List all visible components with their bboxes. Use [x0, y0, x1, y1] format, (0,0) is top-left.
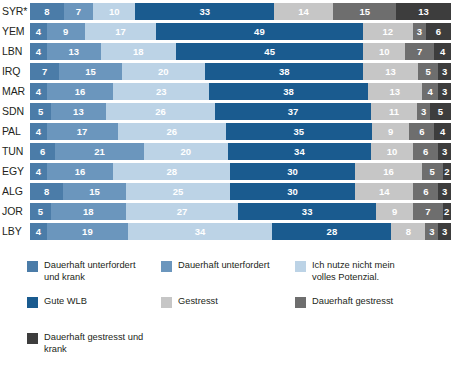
- legend-item[interactable]: Gestresst: [161, 296, 218, 308]
- bar-row-label: EGY: [0, 163, 30, 180]
- bar-segment: 9: [376, 203, 414, 220]
- bar-segment: 4: [30, 123, 47, 140]
- bar-segment-value: 35: [294, 126, 305, 137]
- bar-segment-value: 6: [40, 146, 45, 157]
- bar-segment-value: 28: [166, 166, 177, 177]
- bar-track: 4917491236: [30, 23, 451, 40]
- bar-segment-value: 30: [287, 186, 298, 197]
- legend-item[interactable]: Ich nutze nicht mein volles Potenzial.: [295, 260, 395, 283]
- bar-segment-value: 28: [327, 226, 338, 237]
- bar-segment-value: 17: [77, 126, 88, 137]
- bar-segment-value: 13: [68, 46, 79, 57]
- bar-segment-value: 11: [389, 106, 399, 117]
- bar-segment: 4: [434, 123, 451, 140]
- bar-segment-value: 45: [264, 46, 275, 57]
- bar-segment-value: 17: [115, 26, 126, 37]
- bar-segment: 14: [355, 183, 413, 200]
- legend-label: Dauerhaft unterfordert und krank: [44, 260, 135, 283]
- bar-row-label: JOR: [0, 203, 30, 220]
- bar-segment-value: 9: [63, 26, 68, 37]
- bar-segment: 7: [30, 63, 59, 80]
- bar-segment: 4: [422, 83, 439, 100]
- bar-segment-value: 3: [442, 66, 447, 77]
- legend-label: Dauerhaft unterfordert: [178, 260, 269, 272]
- bar-segment: 4: [30, 23, 47, 40]
- bar-segment: 16: [47, 83, 114, 100]
- bar-row: SYR*871033141513: [0, 3, 451, 20]
- bar-segment-value: 37: [288, 106, 299, 117]
- legend-label: Dauerhaft gestresst und krank: [44, 332, 143, 355]
- bar-segment-value: 4: [440, 126, 445, 137]
- bar-segment-value: 3: [442, 146, 447, 157]
- bar-segment-value: 9: [392, 206, 397, 217]
- legend-color-swatch: [295, 261, 306, 272]
- bar-row: JOR5182733972: [0, 203, 451, 220]
- bar-track: 41318451074: [30, 43, 451, 60]
- bar-segment: 6: [426, 23, 451, 40]
- bar-track: 51326371135: [30, 103, 451, 120]
- bar-segment-value: 16: [383, 166, 394, 177]
- bar-segment-value: 20: [180, 146, 191, 157]
- bar-segment: 5: [418, 63, 439, 80]
- bar-segment: 5: [30, 103, 51, 120]
- bar-segment: 9: [47, 23, 85, 40]
- bar-segment-value: 10: [387, 146, 398, 157]
- bar-segment: 19: [47, 223, 128, 240]
- bar-segment: 4: [434, 43, 451, 60]
- bar-segment-value: 4: [36, 166, 41, 177]
- legend-color-swatch: [27, 333, 38, 344]
- bar-segment: 6: [30, 143, 55, 160]
- bar-segment: 33: [135, 3, 274, 20]
- bar-segment-value: 3: [442, 226, 447, 237]
- bar-segment: 30: [230, 183, 355, 200]
- bar-segment: 3: [438, 223, 451, 240]
- bar-segment-value: 4: [36, 226, 41, 237]
- bar-row-label: SYR*: [0, 3, 30, 20]
- bar-segment-value: 13: [385, 66, 396, 77]
- bar-segment-value: 7: [425, 206, 430, 217]
- bar-track: 62120341063: [30, 143, 451, 160]
- bar-row: PAL4172635964: [0, 123, 451, 140]
- bar-row: YEM4917491236: [0, 23, 451, 40]
- legend-item[interactable]: Gute WLB: [27, 296, 87, 308]
- bar-segment-value: 33: [302, 206, 313, 217]
- bar-segment: 17: [85, 23, 157, 40]
- legend-item[interactable]: Dauerhaft gestresst: [295, 296, 393, 308]
- bar-row: EGY41628301652: [0, 163, 451, 180]
- bar-segment-value: 33: [199, 6, 210, 17]
- bar-segment-value: 27: [177, 206, 188, 217]
- bar-segment-value: 5: [38, 106, 43, 117]
- bar-segment-value: 20: [158, 66, 169, 77]
- bar-segment: 17: [47, 123, 118, 140]
- bar-segment: 15: [59, 63, 122, 80]
- bar-row-label: LBN: [0, 43, 30, 60]
- bar-segment-value: 6: [436, 26, 441, 37]
- bar-segment-value: 15: [359, 6, 370, 17]
- bar-segment: 4: [30, 43, 47, 60]
- bar-segment: 3: [438, 83, 451, 100]
- bar-segment: 5: [30, 203, 51, 220]
- bar-segment-value: 4: [36, 46, 41, 57]
- bars-area: SYR*871033141513YEM4917491236LBN41318451…: [0, 0, 451, 248]
- bar-segment: 20: [122, 63, 205, 80]
- bar-segment: 6: [413, 183, 438, 200]
- bar-segment-value: 4: [36, 86, 41, 97]
- bar-segment: 7: [413, 203, 442, 220]
- legend-item[interactable]: Dauerhaft unterfordert und krank: [27, 260, 135, 283]
- bar-segment: 18: [51, 203, 126, 220]
- bar-segment: 4: [30, 223, 47, 240]
- bar-segment: 3: [438, 63, 451, 80]
- bar-segment-value: 3: [442, 186, 447, 197]
- bar-segment-value: 13: [389, 86, 400, 97]
- legend-item[interactable]: Dauerhaft gestresst und krank: [27, 332, 143, 355]
- bar-segment-value: 18: [83, 206, 94, 217]
- legend-label: Gestresst: [178, 296, 218, 308]
- legend-item[interactable]: Dauerhaft unterfordert: [161, 260, 269, 272]
- bar-segment: 13: [47, 43, 101, 60]
- bar-track: 41628301652: [30, 163, 451, 180]
- bar-segment-value: 4: [36, 26, 41, 37]
- bar-segment-value: 34: [294, 146, 305, 157]
- bar-track: 5182733972: [30, 203, 451, 220]
- stacked-bar-chart: SYR*871033141513YEM4917491236LBN41318451…: [0, 0, 451, 376]
- bar-row: TUN62120341063: [0, 143, 451, 160]
